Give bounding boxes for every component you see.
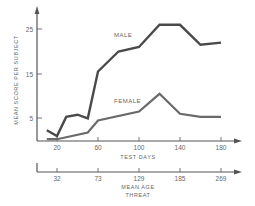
- y-tick-25: 25: [26, 26, 34, 33]
- x-axis: 20 60 100 140 180 TEST DAYS: [37, 137, 242, 160]
- secondary-x-axis: 32 73 129 185 269 MEAN AGE THREAT: [37, 163, 242, 198]
- male-series-line: [47, 25, 221, 136]
- age-tick-269: 269: [216, 175, 227, 182]
- age-tick-32: 32: [53, 175, 61, 182]
- secondary-axis-title-line2: THREAT: [125, 192, 150, 198]
- x-axis-arrow-icon: [234, 139, 242, 144]
- x-tick-180: 180: [216, 144, 227, 151]
- age-tick-129: 129: [134, 175, 145, 182]
- female-label: FEMALE: [114, 98, 141, 104]
- y-axis: 25 15 5 MEAN SCORE PER SUBJECT: [13, 6, 42, 141]
- y-tick-15: 15: [26, 71, 34, 78]
- x-tick-20: 20: [53, 144, 61, 151]
- chart: 25 15 5 MEAN SCORE PER SUBJECT 20 60 100…: [0, 0, 255, 206]
- secondary-axis-title-line1: MEAN AGE: [121, 184, 155, 190]
- x-tick-140: 140: [175, 144, 186, 151]
- secondary-axis-arrow-icon: [234, 170, 242, 175]
- age-tick-73: 73: [94, 175, 102, 182]
- x-tick-100: 100: [134, 144, 145, 151]
- y-axis-title: MEAN SCORE PER SUBJECT: [13, 35, 19, 125]
- male-label: MALE: [114, 32, 132, 38]
- x-axis-title: TEST DAYS: [120, 154, 155, 160]
- x-tick-60: 60: [94, 144, 102, 151]
- y-tick-5: 5: [29, 115, 33, 122]
- age-tick-185: 185: [175, 175, 186, 182]
- y-axis-arrow-icon: [35, 6, 40, 14]
